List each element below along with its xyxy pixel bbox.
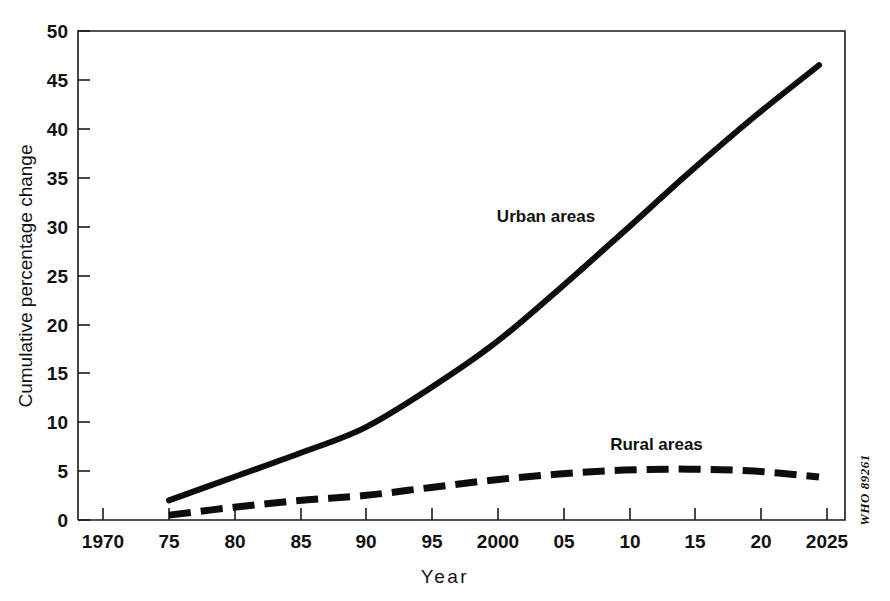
x-tick-label: 80 xyxy=(224,531,245,552)
y-tick-label: 45 xyxy=(47,70,69,91)
x-tick-label: 85 xyxy=(290,531,312,552)
x-axis-tick-labels: 1970 75 80 85 90 95 2000 05 10 15 20 202… xyxy=(82,531,849,552)
x-tick-label: 95 xyxy=(421,531,443,552)
y-tick-label: 20 xyxy=(47,315,68,336)
y-tick-label: 35 xyxy=(47,168,69,189)
x-tick-label: 90 xyxy=(355,531,376,552)
line-chart: 0 5 10 15 20 25 30 35 40 45 50 xyxy=(0,0,890,601)
x-axis-title: Year xyxy=(421,566,469,587)
annotation-urban-areas: Urban areas xyxy=(497,207,595,226)
y-axis-tick-labels: 0 5 10 15 20 25 30 35 40 45 50 xyxy=(47,21,69,531)
x-tick-label: 05 xyxy=(553,531,575,552)
y-axis-ticks xyxy=(78,31,90,520)
plot-frame xyxy=(78,31,845,520)
x-tick-label: 10 xyxy=(619,531,640,552)
x-tick-label: 2000 xyxy=(477,531,519,552)
x-tick-label: 2025 xyxy=(806,531,849,552)
y-tick-label: 15 xyxy=(47,363,69,384)
y-axis-title: Cumulative percentage change xyxy=(15,144,36,407)
x-tick-label: 75 xyxy=(158,531,180,552)
y-tick-label: 5 xyxy=(57,461,68,482)
x-tick-label: 15 xyxy=(684,531,706,552)
series-line-urban-areas xyxy=(169,65,819,500)
y-tick-label: 0 xyxy=(57,510,68,531)
chart-figure: 0 5 10 15 20 25 30 35 40 45 50 xyxy=(0,0,890,601)
annotation-rural-areas: Rural areas xyxy=(610,435,703,454)
y-tick-label: 30 xyxy=(47,217,68,238)
y-tick-label: 50 xyxy=(47,21,68,42)
x-tick-label: 20 xyxy=(750,531,771,552)
source-credit: WHO 89261 xyxy=(857,454,872,525)
y-tick-label: 40 xyxy=(47,119,68,140)
series-line-rural-areas xyxy=(169,469,819,515)
y-tick-label: 25 xyxy=(47,266,69,287)
y-tick-label: 10 xyxy=(47,412,68,433)
x-tick-label: 1970 xyxy=(82,531,124,552)
